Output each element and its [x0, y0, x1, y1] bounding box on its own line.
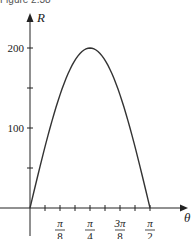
x-tick-label-denominator: 2	[147, 230, 153, 239]
x-tick-label-numerator: π	[57, 217, 63, 229]
x-tick-label-denominator: 4	[87, 230, 93, 239]
data-curve	[30, 48, 150, 208]
x-ticks: π8π43π8π2	[45, 205, 155, 239]
y-tick-label: 200	[8, 42, 25, 54]
x-tick-label-denominator: 8	[57, 230, 63, 239]
y-tick-label: 100	[8, 122, 25, 134]
y-ticks: 100200	[8, 42, 34, 168]
x-axis-label: θ	[184, 210, 191, 225]
y-axis-arrow-icon	[27, 13, 34, 22]
x-tick-label-denominator: 8	[117, 230, 123, 239]
chart: 100200 π8π43π8π2 R θ	[0, 0, 193, 239]
x-tick-label-numerator: π	[147, 217, 153, 229]
x-tick-label-numerator: 3π	[113, 217, 126, 229]
x-tick-label-numerator: π	[87, 217, 93, 229]
y-axis-label: R	[36, 10, 45, 25]
